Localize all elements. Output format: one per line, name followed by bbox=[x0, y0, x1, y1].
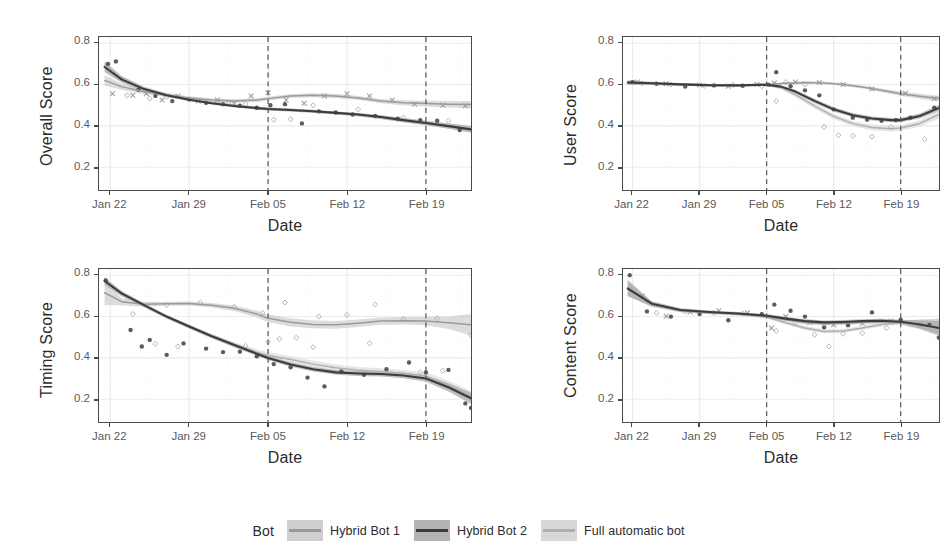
points-hybrid-bot-1 bbox=[110, 90, 468, 108]
legend-item-hybrid-bot-1[interactable]: Hybrid Bot 1 bbox=[287, 520, 400, 541]
x-tick-label: Feb 12 bbox=[798, 430, 870, 442]
y-tick-label: 0.6 bbox=[582, 76, 614, 88]
x-tick-label: Feb 19 bbox=[391, 198, 463, 210]
confidence-band-hybrid-bot-1 bbox=[628, 279, 939, 335]
trend-line-hybrid-bot-1 bbox=[105, 293, 471, 325]
x-tick-mark bbox=[698, 423, 699, 427]
figure-root: 0.20.40.60.8Jan 22Jan 29Feb 05Feb 12Feb … bbox=[0, 0, 951, 549]
y-tick-mark bbox=[618, 84, 622, 85]
x-axis-label-bottom-left: Date bbox=[98, 449, 472, 467]
y-tick-label: 0.4 bbox=[582, 350, 614, 362]
legend-item-full-automatic-bot[interactable]: Full automatic bot bbox=[541, 520, 684, 541]
points-hybrid-bot-1 bbox=[130, 300, 471, 338]
x-tick-mark bbox=[631, 423, 632, 427]
points-hybrid-bot-1 bbox=[640, 294, 922, 331]
x-tick-mark bbox=[901, 191, 902, 195]
x-axis-label-top-right: Date bbox=[622, 217, 940, 235]
confidence-band-hybrid-bot-1 bbox=[105, 280, 471, 335]
trend-line-full-automatic-bot bbox=[628, 288, 939, 331]
confidence-band-full-automatic-bot bbox=[105, 61, 471, 133]
y-tick-mark bbox=[618, 167, 622, 168]
y-axis-label-top-left: Overall Score bbox=[38, 66, 56, 166]
legend-label: Hybrid Bot 1 bbox=[330, 524, 400, 538]
x-tick-mark bbox=[426, 423, 427, 427]
y-tick-label: 0.6 bbox=[58, 76, 90, 88]
x-tick-label: Feb 19 bbox=[391, 430, 463, 442]
plot-area-top-left bbox=[98, 36, 472, 191]
y-tick-mark bbox=[618, 42, 622, 43]
y-tick-mark bbox=[94, 167, 98, 168]
confidence-band-hybrid-bot-2 bbox=[628, 80, 939, 122]
trend-line-full-automatic-bot bbox=[628, 83, 939, 129]
legend: Bot Hybrid Bot 1 Hybrid Bot 2 Full autom… bbox=[0, 520, 951, 541]
y-tick-mark bbox=[94, 274, 98, 275]
plot-area-bottom-left bbox=[98, 268, 472, 423]
x-tick-mark bbox=[833, 191, 834, 195]
x-tick-mark bbox=[109, 191, 110, 195]
panel-top-right: 0.20.40.60.8Jan 22Jan 29Feb 05Feb 12Feb … bbox=[0, 0, 951, 549]
y-tick-label: 0.8 bbox=[582, 34, 614, 46]
y-tick-mark bbox=[94, 84, 98, 85]
points-full-automatic-bot bbox=[654, 309, 939, 349]
x-tick-label: Feb 05 bbox=[731, 430, 803, 442]
points-full-automatic-bot bbox=[125, 93, 451, 123]
x-tick-mark bbox=[631, 191, 632, 195]
y-tick-label: 0.8 bbox=[582, 266, 614, 278]
trend-line-full-automatic-bot bbox=[105, 66, 471, 129]
trend-line-hybrid-bot-2 bbox=[628, 289, 939, 328]
y-tick-mark bbox=[618, 399, 622, 400]
legend-label: Hybrid Bot 2 bbox=[457, 524, 527, 538]
x-tick-label: Jan 29 bbox=[153, 198, 225, 210]
x-tick-label: Jan 22 bbox=[73, 198, 145, 210]
x-tick-mark bbox=[766, 191, 767, 195]
y-tick-mark bbox=[618, 316, 622, 317]
confidence-band-hybrid-bot-2 bbox=[105, 277, 471, 403]
confidence-band-hybrid-bot-1 bbox=[628, 81, 939, 101]
y-tick-mark bbox=[94, 42, 98, 43]
x-axis-label-bottom-right: Date bbox=[622, 449, 940, 467]
legend-key-icon bbox=[414, 520, 450, 541]
x-tick-mark bbox=[426, 191, 427, 195]
y-tick-label: 0.6 bbox=[58, 308, 90, 320]
plot-canvas bbox=[99, 269, 471, 422]
x-tick-label: Feb 12 bbox=[311, 198, 383, 210]
x-tick-label: Jan 22 bbox=[596, 430, 668, 442]
trend-line-hybrid-bot-1 bbox=[628, 82, 939, 98]
y-axis-label-bottom-left: Timing Score bbox=[38, 301, 56, 397]
x-tick-label: Jan 22 bbox=[73, 430, 145, 442]
y-tick-label: 0.4 bbox=[58, 350, 90, 362]
confidence-band-full-automatic-bot bbox=[105, 277, 471, 402]
legend-title: Bot bbox=[252, 523, 274, 539]
y-tick-mark bbox=[94, 316, 98, 317]
legend-key-icon bbox=[287, 520, 323, 541]
confidence-band-hybrid-bot-2 bbox=[628, 281, 939, 335]
x-tick-label: Feb 05 bbox=[731, 198, 803, 210]
legend-item-hybrid-bot-2[interactable]: Hybrid Bot 2 bbox=[414, 520, 527, 541]
x-tick-label: Feb 05 bbox=[232, 198, 304, 210]
points-hybrid-bot-2 bbox=[104, 278, 471, 410]
points-hybrid-bot-2 bbox=[106, 59, 462, 132]
x-tick-label: Feb 12 bbox=[311, 430, 383, 442]
y-tick-label: 0.8 bbox=[58, 266, 90, 278]
y-tick-label: 0.6 bbox=[582, 308, 614, 320]
y-tick-mark bbox=[618, 274, 622, 275]
x-tick-mark bbox=[901, 423, 902, 427]
y-tick-label: 0.2 bbox=[58, 160, 90, 172]
x-tick-mark bbox=[347, 423, 348, 427]
x-tick-mark bbox=[267, 191, 268, 195]
confidence-band-full-automatic-bot bbox=[628, 81, 939, 132]
x-tick-label: Jan 29 bbox=[663, 430, 735, 442]
y-tick-mark bbox=[618, 125, 622, 126]
y-tick-label: 0.8 bbox=[58, 34, 90, 46]
x-tick-mark bbox=[188, 423, 189, 427]
panel-bottom-right: 0.20.40.60.8Jan 22Jan 29Feb 05Feb 12Feb … bbox=[0, 0, 951, 549]
x-tick-label: Feb 05 bbox=[232, 430, 304, 442]
x-tick-mark bbox=[698, 191, 699, 195]
points-full-automatic-bot bbox=[153, 335, 445, 375]
x-tick-mark bbox=[188, 191, 189, 195]
x-tick-label: Jan 22 bbox=[596, 198, 668, 210]
points-hybrid-bot-2 bbox=[630, 70, 936, 123]
trend-line-hybrid-bot-1 bbox=[628, 288, 939, 328]
y-tick-label: 0.2 bbox=[582, 392, 614, 404]
x-axis-label-top-left: Date bbox=[98, 217, 472, 235]
